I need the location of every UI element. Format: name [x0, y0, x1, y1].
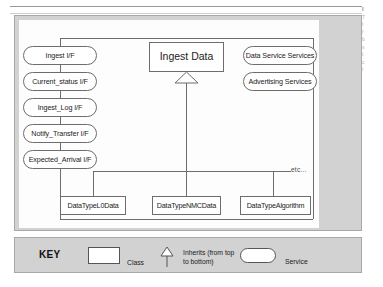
- connector-top-span: [60, 38, 313, 39]
- connector-subclass-drop-3: [273, 171, 274, 196]
- service-label: Advertising Services: [248, 78, 311, 86]
- key-inherits-label: Inherits (from top to bottom): [183, 249, 235, 266]
- class-datatype-nmcdata[interactable]: DataTypeNMCData: [152, 196, 221, 215]
- key-service-swatch: [240, 248, 276, 263]
- key-panel: KEY Class Inherits (from top to bottom) …: [14, 237, 362, 273]
- key-title: KEY: [39, 249, 60, 260]
- key-class-swatch: [88, 247, 120, 264]
- connector-etc-tail: [273, 171, 291, 172]
- service-label: Ingest I/F: [46, 52, 75, 60]
- class-datatype-l0data[interactable]: DataTypeL0Data: [60, 196, 126, 215]
- class-ingest-data[interactable]: Ingest Data: [149, 42, 224, 72]
- inherits-arrow-icon: [160, 246, 174, 268]
- connector-bottom-span: [60, 219, 313, 220]
- margin-text-line: r: [362, 66, 383, 74]
- service-ingest-if[interactable]: Ingest I/F: [23, 46, 97, 65]
- class-ingest-data-label: Ingest Data: [160, 51, 214, 62]
- connector-subclass-drop-1: [93, 171, 94, 196]
- diagram-plate: etc... Ingest Data Ingest I/F Current_st…: [19, 20, 319, 228]
- service-label: Data Service Services: [246, 52, 315, 60]
- service-current-status-if[interactable]: Current_status I/F: [23, 72, 97, 91]
- uml-figure: etc... Ingest Data Ingest I/F Current_st…: [14, 15, 362, 273]
- key-service-label: Service: [285, 258, 308, 265]
- connector-subclass-drop-2: [186, 171, 187, 196]
- connector-generalization-bus: [93, 171, 273, 172]
- margin-body-text: I T t f b s t c r: [362, 6, 383, 76]
- class-label: DataTypeNMCData: [157, 202, 216, 210]
- diagram-panel: etc... Ingest Data Ingest I/F Current_st…: [14, 15, 362, 231]
- service-label: Notify_Transfer I/F: [31, 130, 88, 138]
- margin-text-line: t: [362, 51, 383, 59]
- service-data-service-services[interactable]: Data Service Services: [243, 46, 317, 65]
- margin-text-line: f: [362, 29, 383, 37]
- service-label: Expected_Arrival I/F: [29, 156, 92, 164]
- margin-text-line: T: [362, 14, 383, 22]
- margin-text-line: I: [362, 6, 383, 14]
- page-rule-top: [10, 6, 362, 7]
- service-notify-transfer-if[interactable]: Notify_Transfer I/F: [23, 124, 97, 143]
- service-advertising-services[interactable]: Advertising Services: [243, 72, 317, 91]
- margin-text-line: t: [362, 21, 383, 29]
- service-label: Current_status I/F: [32, 78, 88, 86]
- service-expected-arrival-if[interactable]: Expected_Arrival I/F: [23, 150, 97, 169]
- key-class-label: Class: [127, 259, 144, 266]
- margin-text-line: b: [362, 36, 383, 44]
- page-rule-secondary: [10, 13, 362, 14]
- margin-text-line: s: [362, 44, 383, 52]
- inheritance-triangle-icon: [174, 71, 199, 84]
- class-datatype-algorithm[interactable]: DataTypeAlgorithm: [240, 196, 311, 215]
- class-label: DataTypeAlgorithm: [247, 202, 305, 210]
- connector-generalization-stem: [186, 82, 187, 171]
- class-label: DataTypeL0Data: [67, 202, 118, 210]
- margin-text-line: c: [362, 59, 383, 67]
- etc-label: etc...: [291, 166, 307, 173]
- service-label: Ingest_Log I/F: [38, 104, 83, 112]
- service-ingest-log-if[interactable]: Ingest_Log I/F: [23, 98, 97, 117]
